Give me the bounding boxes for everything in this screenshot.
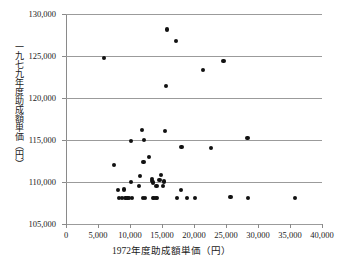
x-tick-label: 35,000 bbox=[278, 231, 301, 240]
x-tick-label: 25,000 bbox=[214, 231, 237, 240]
y-tick-mark bbox=[62, 56, 66, 57]
y-tick-label: 105,000 bbox=[28, 220, 56, 229]
data-point bbox=[154, 184, 158, 188]
data-point bbox=[163, 129, 167, 133]
data-point bbox=[221, 59, 225, 63]
gridline bbox=[66, 14, 322, 15]
data-point bbox=[147, 155, 151, 159]
x-tick-mark bbox=[258, 224, 259, 228]
data-point bbox=[193, 196, 197, 200]
x-tick-label: 10,000 bbox=[118, 231, 141, 240]
x-tick-mark bbox=[290, 224, 291, 228]
data-point bbox=[140, 128, 144, 132]
data-point bbox=[174, 39, 178, 43]
data-point bbox=[245, 136, 249, 140]
data-point bbox=[162, 179, 166, 183]
data-point bbox=[179, 188, 183, 192]
data-point bbox=[164, 84, 168, 88]
y-tick-mark bbox=[62, 140, 66, 141]
y-tick-label: 115,000 bbox=[29, 136, 56, 145]
data-point bbox=[102, 56, 106, 60]
x-tick-label: 5,000 bbox=[88, 231, 107, 240]
data-point bbox=[155, 196, 159, 200]
gridline bbox=[66, 98, 322, 99]
gridline bbox=[66, 182, 322, 183]
y-tick-label: 110,000 bbox=[29, 178, 56, 187]
x-tick-label: 40,000 bbox=[310, 231, 333, 240]
data-point bbox=[112, 163, 116, 167]
x-tick-mark bbox=[66, 224, 67, 228]
data-point bbox=[142, 138, 146, 142]
data-point bbox=[138, 174, 142, 178]
data-point bbox=[185, 196, 189, 200]
plot-area bbox=[66, 14, 322, 224]
data-point bbox=[129, 180, 133, 184]
data-point bbox=[157, 178, 161, 182]
x-axis-title: 1972年度助成額単価（円） bbox=[0, 245, 343, 257]
y-tick-label: 125,000 bbox=[28, 52, 56, 61]
y-tick-label: 120,000 bbox=[28, 94, 56, 103]
gridline bbox=[66, 140, 322, 141]
data-point bbox=[161, 184, 165, 188]
y-axis-title: 一九七九年度助成額単価（円） bbox=[8, 42, 24, 214]
x-tick-mark bbox=[322, 224, 323, 228]
x-tick-label: 20,000 bbox=[182, 231, 205, 240]
data-point bbox=[228, 195, 232, 199]
data-point bbox=[293, 196, 297, 200]
data-point bbox=[179, 145, 183, 149]
data-point bbox=[159, 173, 163, 177]
data-point bbox=[165, 27, 169, 31]
data-point bbox=[209, 146, 213, 150]
y-tick-mark bbox=[62, 182, 66, 183]
y-tick-mark bbox=[62, 98, 66, 99]
data-point bbox=[129, 139, 133, 143]
data-point bbox=[130, 196, 134, 200]
x-tick-mark bbox=[194, 224, 195, 228]
data-point bbox=[201, 68, 205, 72]
y-tick-label: 130,000 bbox=[28, 10, 56, 19]
x-tick-label: 0 bbox=[64, 231, 68, 240]
data-point bbox=[122, 187, 126, 191]
data-point bbox=[175, 196, 179, 200]
data-point bbox=[246, 196, 250, 200]
x-tick-mark bbox=[130, 224, 131, 228]
x-tick-mark bbox=[226, 224, 227, 228]
x-tick-label: 15,000 bbox=[150, 231, 173, 240]
data-point bbox=[137, 184, 141, 188]
x-tick-label: 30,000 bbox=[246, 231, 269, 240]
data-point bbox=[143, 196, 147, 200]
x-tick-mark bbox=[98, 224, 99, 228]
x-tick-mark bbox=[162, 224, 163, 228]
y-tick-mark bbox=[62, 14, 66, 15]
data-point bbox=[141, 160, 145, 164]
data-point bbox=[116, 188, 120, 192]
scatter-chart: 一九七九年度助成額単価（円） 105,000110,000115,000120,… bbox=[0, 0, 343, 266]
